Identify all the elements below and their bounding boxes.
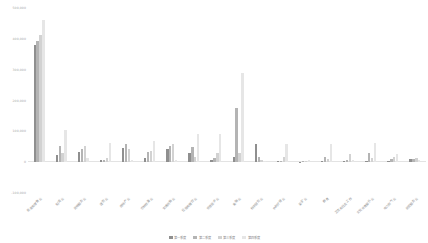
- bar[interactable]: [396, 154, 398, 162]
- x-axis-label: 金融业: [231, 196, 241, 206]
- bar-chart: 500,000400,000300,000200,000100,0000-100…: [0, 0, 428, 243]
- bar-group: [404, 0, 426, 193]
- legend-label: 第二季度: [199, 235, 211, 240]
- bar-group: [72, 0, 94, 193]
- bar-group: [94, 0, 116, 193]
- legend-swatch: [218, 236, 222, 238]
- bar[interactable]: [308, 160, 310, 162]
- y-axis: 500,000400,000300,000200,000100,0000-100…: [0, 0, 28, 243]
- legend-item[interactable]: 第三季度: [218, 235, 236, 240]
- bar-group: [382, 0, 404, 193]
- bar-group: [271, 0, 293, 193]
- x-axis-label: 教育: [322, 196, 330, 204]
- bar[interactable]: [131, 160, 133, 162]
- legend-label: 第一季度: [174, 235, 186, 240]
- legend-swatch: [193, 236, 197, 238]
- x-axis-label: 住宿和餐饮业: [180, 196, 197, 213]
- x-axis-labels: 批发和零售业制造业其他服务业建筑业房地产业农林牧渔业交通运输业住宿和餐饮业信息技…: [28, 194, 426, 234]
- x-axis-label-cell: 交通运输业: [161, 194, 183, 234]
- x-axis-label: 水利环境业: [271, 196, 286, 211]
- x-axis-label-cell: 采矿业: [293, 194, 315, 234]
- x-axis-label: 批发和零售业: [26, 196, 43, 213]
- legend-label: 第四季度: [248, 235, 260, 240]
- bar[interactable]: [42, 20, 44, 162]
- y-axis-tick: 200,000: [13, 99, 27, 103]
- bar[interactable]: [374, 143, 376, 162]
- x-axis-label: 交通运输业: [161, 196, 176, 211]
- y-axis-tick: 400,000: [13, 37, 27, 41]
- legend-item[interactable]: 第二季度: [193, 235, 211, 240]
- legend-item[interactable]: 第一季度: [169, 235, 187, 240]
- bar[interactable]: [330, 144, 332, 163]
- x-axis-label: 采矿业: [298, 196, 308, 206]
- y-axis-tick: 300,000: [13, 68, 27, 72]
- y-axis-tick: -100,000: [11, 191, 26, 195]
- bar-group: [116, 0, 138, 193]
- x-axis-label: 房地产业: [119, 196, 131, 208]
- bar-group: [293, 0, 315, 193]
- x-axis-label-cell: 房地产业: [116, 194, 138, 234]
- y-axis-tick: 100,000: [13, 129, 27, 133]
- bar-group: [28, 0, 50, 193]
- plot-area: [28, 8, 426, 193]
- x-axis-label: 其他服务业: [72, 196, 87, 211]
- x-axis-label: 居民服务业: [404, 196, 419, 211]
- bar[interactable]: [241, 73, 243, 162]
- x-axis-label-cell: 信息技术业: [205, 194, 227, 234]
- x-axis-label: 信息技术业: [205, 196, 220, 211]
- x-axis-label-cell: 其他服务业: [72, 194, 94, 234]
- bar[interactable]: [285, 144, 287, 162]
- x-axis-label-cell: 文化体育娱乐业: [360, 194, 382, 234]
- x-axis-label-cell: 卫生和社会工作: [338, 194, 360, 234]
- bar[interactable]: [197, 134, 199, 162]
- bar[interactable]: [109, 143, 111, 162]
- bar-group: [50, 0, 72, 193]
- bar-group: [249, 0, 271, 193]
- bar[interactable]: [418, 160, 420, 162]
- x-axis-label: 制造业: [54, 196, 64, 206]
- x-axis-label: 电力燃气业: [382, 196, 397, 211]
- bar[interactable]: [86, 158, 88, 162]
- x-axis-label-cell: 水利环境业: [271, 194, 293, 234]
- x-axis-label: 建筑业: [99, 196, 109, 206]
- legend-swatch: [242, 236, 246, 238]
- chart-legend: 第一季度第二季度第三季度第四季度: [0, 235, 428, 240]
- bar-group: [338, 0, 360, 193]
- x-axis-label-cell: 金融业: [227, 194, 249, 234]
- legend-label: 第三季度: [223, 235, 235, 240]
- legend-item[interactable]: 第四季度: [242, 235, 260, 240]
- y-axis-tick: 0: [24, 160, 26, 164]
- bar-group: [360, 0, 382, 193]
- bar[interactable]: [64, 130, 66, 162]
- bar-group: [161, 0, 183, 193]
- bar-group: [139, 0, 161, 193]
- bar-group: [315, 0, 337, 193]
- x-axis-label-cell: 制造业: [50, 194, 72, 234]
- x-axis-label-cell: 农林牧渔业: [139, 194, 161, 234]
- bar-group: [205, 0, 227, 193]
- bar[interactable]: [175, 160, 177, 162]
- x-axis-label-cell: 电力燃气业: [382, 194, 404, 234]
- x-axis-label-cell: 住宿和餐饮业: [183, 194, 205, 234]
- bar-group: [227, 0, 249, 193]
- x-axis-label-cell: 居民服务业: [404, 194, 426, 234]
- y-axis-tick: 500,000: [13, 6, 27, 10]
- x-axis-label-cell: 科学研究业: [249, 194, 271, 234]
- x-axis-label-cell: 建筑业: [94, 194, 116, 234]
- legend-swatch: [169, 236, 173, 238]
- bar[interactable]: [352, 160, 354, 162]
- bar[interactable]: [153, 141, 155, 163]
- bar[interactable]: [219, 134, 221, 162]
- x-axis-label: 科学研究业: [249, 196, 264, 211]
- x-axis-label: 农林牧渔业: [138, 196, 153, 211]
- bar-group: [183, 0, 205, 193]
- bar-groups: [28, 8, 426, 193]
- x-axis-label-cell: 教育: [315, 194, 337, 234]
- bar[interactable]: [263, 161, 265, 163]
- x-axis-label-cell: 批发和零售业: [28, 194, 50, 234]
